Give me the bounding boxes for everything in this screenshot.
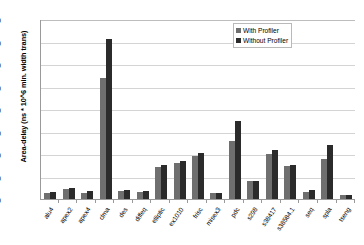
bar <box>216 193 222 199</box>
bar-group <box>207 20 225 199</box>
bar <box>161 165 167 199</box>
bar <box>327 145 333 199</box>
x-axis-tick-labels: alu4apex2apex4clmadesdiffeqellipticex101… <box>40 204 355 245</box>
y-axis-tick-label: 3500 <box>0 39 1 46</box>
bar <box>69 188 75 199</box>
y-axis-title: Area-delay (ns * 10^6 min. width trans) <box>19 2 28 192</box>
x-axis-tick-label: s38417 <box>260 206 278 227</box>
legend: With ProfilerWithout Profiler <box>233 23 292 48</box>
x-axis-label-slot: s298 <box>244 204 263 245</box>
legend-swatch-icon <box>236 38 241 43</box>
x-axis-tick-label: alu4 <box>42 206 55 220</box>
bar-group <box>300 20 318 199</box>
bar <box>198 153 204 199</box>
bar-group <box>152 20 170 199</box>
x-axis-tick-label: apex4 <box>76 206 92 224</box>
x-axis-label-slot: apex4 <box>77 204 96 245</box>
plot-area <box>40 20 355 200</box>
bar <box>235 121 241 199</box>
x-axis-tick-label: seq <box>303 206 315 218</box>
x-axis-label-slot: clma <box>96 204 115 245</box>
bar-chart: Area-delay (ns * 10^6 min. width trans) … <box>0 0 364 245</box>
legend-item: Without Profiler <box>236 36 288 45</box>
x-axis-tick-label: spla <box>321 206 333 220</box>
x-axis-label-slot: pdc <box>225 204 244 245</box>
bar-group <box>59 20 77 199</box>
x-axis-label-slot: frisc <box>188 204 207 245</box>
x-axis-label-slot: des <box>114 204 133 245</box>
x-axis-label-slot: apex2 <box>59 204 78 245</box>
x-axis-label-slot: alu4 <box>40 204 59 245</box>
x-axis-label-slot: elliptic <box>151 204 170 245</box>
x-axis-label-slot: seq <box>299 204 318 245</box>
x-axis-label-slot: spla <box>318 204 337 245</box>
x-axis-label-slot: ex1010 <box>170 204 189 245</box>
bar-group <box>115 20 133 199</box>
bar <box>346 195 352 199</box>
bar <box>180 161 186 199</box>
bar-group <box>133 20 151 199</box>
y-axis-tick-label: 1500 <box>0 129 1 136</box>
x-axis-tick-label: s298 <box>245 206 259 221</box>
y-axis-tick-label: 1000 <box>0 152 1 159</box>
x-axis-tick-label: apex2 <box>58 206 74 224</box>
bar <box>290 165 296 199</box>
legend-label: With Profiler <box>243 26 279 35</box>
legend-swatch-icon <box>236 28 241 33</box>
bar-group <box>96 20 114 199</box>
x-axis-label-slot: s38584.1 <box>281 204 300 245</box>
x-axis-tick-label: des <box>117 206 129 218</box>
x-axis-tick-label: clma <box>97 206 110 221</box>
y-axis-tick-label: 2500 <box>0 84 1 91</box>
y-axis-tick-label: 0 <box>0 197 1 204</box>
y-axis-tick-label: 500 <box>0 174 1 181</box>
x-axis-tick-label: ex1010 <box>167 206 185 227</box>
bar-group <box>170 20 188 199</box>
bars-layer <box>41 20 355 199</box>
bar-group <box>318 20 336 199</box>
bar <box>309 190 315 199</box>
bar-group <box>189 20 207 199</box>
x-axis-tick-label: elliptic <box>150 206 166 224</box>
legend-item: With Profiler <box>236 26 288 35</box>
bar <box>272 150 278 199</box>
y-axis-tick-label: 4000 <box>0 17 1 24</box>
bar-group <box>78 20 96 199</box>
bar-group <box>41 20 59 199</box>
bar <box>143 191 149 199</box>
x-axis-tick-label: frisc <box>191 206 203 220</box>
y-axis-tick-label: 2000 <box>0 107 1 114</box>
y-axis-tick-label: 3000 <box>0 62 1 69</box>
x-axis-tick-label: tseng <box>337 206 352 223</box>
bar <box>124 190 130 199</box>
bar <box>106 39 112 199</box>
bar-group <box>337 20 355 199</box>
x-axis-label-slot: misex3 <box>207 204 226 245</box>
legend-label: Without Profiler <box>243 36 288 45</box>
x-axis-tick-label: misex3 <box>204 206 221 227</box>
x-axis-tick-label: diffeq <box>133 206 148 223</box>
x-axis-label-slot: diffeq <box>133 204 152 245</box>
bar <box>253 181 259 199</box>
x-axis-label-slot: tseng <box>337 204 356 245</box>
x-axis-tick-label: pdc <box>229 206 241 218</box>
bar <box>50 192 56 199</box>
bar <box>87 191 93 199</box>
